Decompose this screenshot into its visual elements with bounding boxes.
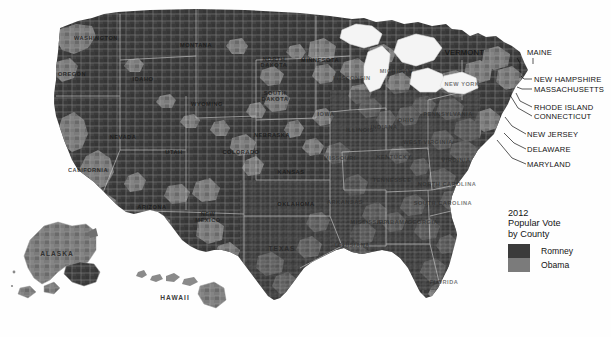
callout-label-rhode-island: RHODE ISLAND [534, 104, 593, 112]
legend-entries: RomneyObama [508, 244, 573, 272]
callout-label-vermont: VERMONT [0, 49, 484, 57]
callout-label-new-hampshire: NEW HAMPSHIRE [534, 76, 602, 84]
callout-label-massachusetts: MASSACHUSETTS [534, 86, 604, 94]
callout-label-delaware: DELAWARE [527, 146, 571, 154]
map-legend: 2012 Popular Vote by County RomneyObama [508, 208, 573, 272]
callout-label-maryland: MARYLAND [527, 161, 571, 169]
legend-label-obama: Obama [541, 260, 569, 270]
legend-title-line-2: Popular Vote [508, 218, 573, 228]
callout-label-maine: MAINE [527, 49, 552, 57]
legend-swatch-obama [508, 258, 530, 272]
callout-label-connecticut: CONNECTICUT [534, 113, 591, 121]
legend-title-line-1: 2012 [508, 208, 573, 218]
legend-swatch-romney [508, 244, 530, 258]
legend-row-romney: Romney [508, 244, 573, 258]
map-screenshot: WASHINGTONOREGONMONTANAIDAHOWYOMINGNEVAD… [0, 0, 611, 337]
legend-title-line-3: by County [508, 229, 573, 239]
legend-row-obama: Obama [508, 258, 573, 272]
callout-label-new-jersey: NEW JERSEY [527, 131, 578, 139]
legend-label-romney: Romney [541, 246, 573, 256]
